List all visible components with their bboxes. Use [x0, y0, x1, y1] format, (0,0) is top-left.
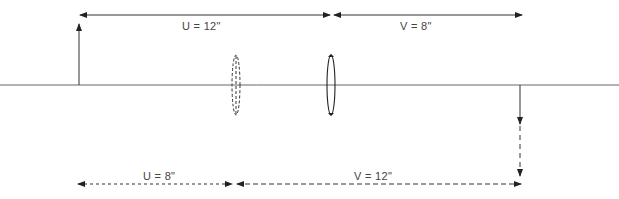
top-v-label: V = 8" [400, 20, 432, 32]
bottom-v-label: V = 12" [354, 170, 392, 182]
optics-diagram [0, 0, 619, 199]
bottom-u-label: U = 8" [143, 170, 175, 182]
top-u-label: U = 12" [182, 20, 221, 32]
